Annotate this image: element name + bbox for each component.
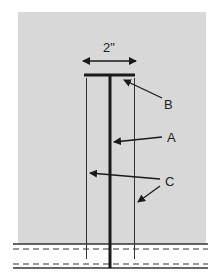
label-b: B (164, 97, 173, 112)
label-a: A (167, 130, 176, 145)
dimension-label: 2" (103, 40, 115, 55)
label-c: C (165, 174, 174, 189)
diagram: 2" B A C (0, 0, 220, 274)
